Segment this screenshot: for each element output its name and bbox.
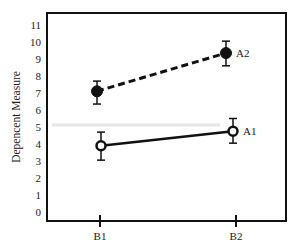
- y-tick-label: 4: [36, 138, 42, 150]
- y-tick-label: 7: [36, 87, 42, 99]
- interaction-line-chart: 01234567891011 B1B2 Depencent Measure A2…: [0, 0, 302, 245]
- y-tick-label: 0: [36, 206, 42, 218]
- x-tick-label: B2: [230, 230, 243, 242]
- series-a2: A2: [92, 41, 250, 104]
- y-tick-label: 6: [36, 104, 42, 116]
- plot-frame: [47, 13, 286, 221]
- y-tick-label: 2: [36, 172, 42, 184]
- open-circle-marker: [97, 141, 106, 150]
- y-axis-tick-labels: 01234567891011: [30, 19, 42, 218]
- y-tick-label: 1: [36, 189, 42, 201]
- series-layer: A2A1: [92, 41, 257, 160]
- filled-circle-marker: [92, 86, 103, 97]
- series-line: [97, 53, 226, 91]
- y-tick-label: 3: [36, 155, 42, 167]
- series-line: [101, 131, 233, 145]
- series-label: A2: [236, 47, 249, 59]
- open-circle-marker: [229, 127, 238, 136]
- x-tick-label: B1: [94, 230, 107, 242]
- y-tick-label: 10: [30, 36, 42, 48]
- chart-canvas: 01234567891011 B1B2 Depencent Measure A2…: [0, 0, 302, 245]
- filled-circle-marker: [221, 48, 232, 59]
- series-label: A1: [243, 125, 256, 137]
- y-tick-label: 11: [30, 19, 41, 31]
- x-axis-ticks: B1B2: [94, 215, 243, 242]
- y-tick-label: 8: [36, 70, 42, 82]
- y-tick-label: 9: [36, 53, 42, 65]
- y-tick-label: 5: [36, 121, 42, 133]
- y-axis-title: Depencent Measure: [10, 71, 23, 163]
